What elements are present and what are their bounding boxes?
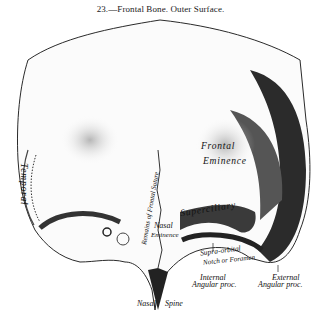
label-nasal-eminence-2: Eminence <box>151 231 179 239</box>
frontal-bone-illustration <box>0 0 321 317</box>
label-frontal: Frontal <box>201 142 235 150</box>
label-internal-2: Angular proc. <box>192 281 237 289</box>
label-external-2: Angular proc. <box>258 281 303 289</box>
label-nasal-spine-2: Spine <box>165 300 183 308</box>
label-nasal-spine-1: Nasal <box>137 300 156 308</box>
label-temporal: Temporal <box>20 163 28 205</box>
label-nasal-eminence-1: Nasal <box>154 222 173 230</box>
label-eminence: Eminence <box>203 157 247 165</box>
